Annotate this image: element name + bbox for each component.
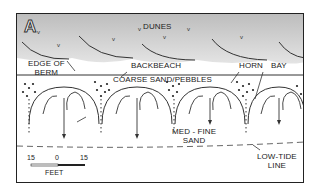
scale-unit: FEET [45, 168, 63, 177]
scale-center: 0 [55, 153, 59, 162]
label-backbeach: BACKBEACH [131, 61, 181, 70]
label-edge-of-berm: EDGE OF BERM [28, 59, 65, 77]
label-med-fine-line2: SAND [172, 136, 216, 145]
panel-label: A [24, 17, 36, 37]
label-horn: HORN [239, 61, 263, 70]
scale-left: 15 [27, 153, 35, 162]
label-low-tide-line: LOW-TIDE LINE [257, 152, 297, 170]
diagram-frame: v v v v v v v [16, 13, 304, 183]
label-bay: BAY [271, 61, 287, 70]
label-dunes: DUNES [143, 22, 172, 31]
label-coarse-sand-pebbles: COARSE SAND/PEBBLES [113, 75, 212, 84]
scale-bar [31, 164, 85, 166]
label-low-tide-line2: LINE [257, 161, 297, 170]
scale-right: 15 [80, 153, 88, 162]
svg-text:v: v [163, 34, 166, 40]
svg-text:v: v [240, 34, 243, 40]
label-edge-of-berm-line1: EDGE OF [28, 59, 65, 68]
svg-text:v: v [187, 26, 190, 32]
label-med-fine-sand: MED - FINE SAND [172, 127, 216, 145]
svg-text:v: v [138, 26, 141, 32]
low-tide-line [17, 142, 304, 147]
svg-text:v: v [37, 29, 40, 35]
label-edge-of-berm-line2: BERM [28, 68, 65, 77]
svg-text:v: v [57, 42, 60, 48]
svg-text:v: v [112, 36, 115, 42]
label-low-tide-line1: LOW-TIDE [257, 152, 297, 161]
label-med-fine-line1: MED - FINE [172, 127, 216, 136]
